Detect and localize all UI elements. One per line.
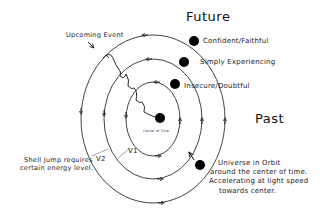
upcoming-event-path [106, 54, 158, 118]
upcoming-event-label: Upcoming Event [66, 32, 124, 39]
universe-line2: around the center of time. [210, 169, 308, 176]
simply-label: Simply Experiencing [200, 59, 275, 66]
confident-dot [189, 36, 199, 46]
center-of-time-label: Center of Time [143, 130, 169, 134]
center-of-time-dot [155, 113, 165, 123]
v1-label: V1 [128, 148, 138, 155]
shell-jump-line1: Shell Jump requires [24, 157, 93, 164]
universe-line3: Accelerating at light speed [209, 178, 308, 185]
insecure-dot [170, 79, 180, 89]
confident-label: Confident/Faithful [203, 38, 269, 45]
shell-jump-line2: certain energy level. [20, 165, 93, 172]
universe-dot [195, 160, 205, 170]
insecure-label: Insecure/Doubtful [184, 83, 250, 90]
upcoming-event-arrow [88, 42, 94, 48]
orbit-inner [126, 82, 180, 156]
universe-line1: Universe in Orbit [218, 160, 281, 167]
v2-label: V2 [96, 156, 106, 163]
simply-dot [179, 57, 189, 67]
orbit-middle [104, 59, 202, 179]
future-label: Future [186, 10, 230, 23]
past-label: Past [255, 112, 284, 125]
universe-line4: towards center. [219, 188, 276, 195]
